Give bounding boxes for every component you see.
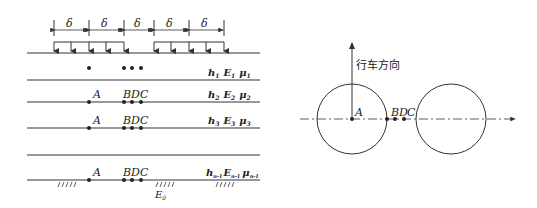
diagram-canvas: δ δ δ δ δ A B D C A B D C A B D C h1E1μ1… [0,0,537,208]
svg-text:δ: δ [166,17,173,30]
svg-text:A: A [92,88,101,101]
svg-text:δ: δ [201,17,208,30]
load-left [54,42,124,51]
points-row-1 [87,66,143,70]
svg-text:C: C [140,166,149,179]
svg-text:B: B [122,88,131,101]
left-layer-diagram [27,20,260,187]
svg-text:D: D [130,114,140,127]
svg-text:B: B [122,166,131,179]
load-right [154,42,224,51]
subgrade-modulus: E0 [154,189,166,201]
svg-text:δ: δ [134,17,141,30]
svg-text:A: A [354,106,363,119]
dimension-labels: δ δ δ δ δ [66,17,208,30]
svg-text:B: B [122,114,131,127]
svg-text:hn-1En-1μn-1: hn-1En-1μn-1 [206,167,259,179]
svg-text:δ: δ [101,17,108,30]
svg-text:h1E1μ1: h1E1μ1 [208,67,251,79]
subgrade-hatch [58,182,234,187]
svg-text:A: A [92,166,101,179]
svg-text:C: C [140,114,149,127]
right-plan-diagram [300,43,515,154]
svg-text:C: C [140,88,149,101]
layer-params: h1E1μ1 h2E2μ2 h3E3μ3 hn-1En-1μn-1 E0 [154,67,259,201]
svg-text:A: A [92,114,101,127]
svg-text:δ: δ [66,17,73,30]
direction-label: 行车方向 [356,58,400,72]
svg-text:B: B [390,106,399,119]
right-points: A B D C [350,106,416,121]
svg-text:h3E3μ3: h3E3μ3 [208,115,251,127]
svg-text:D: D [130,88,140,101]
svg-text:D: D [130,166,140,179]
svg-text:C: C [407,106,416,119]
svg-text:h2E2μ2: h2E2μ2 [208,89,251,101]
